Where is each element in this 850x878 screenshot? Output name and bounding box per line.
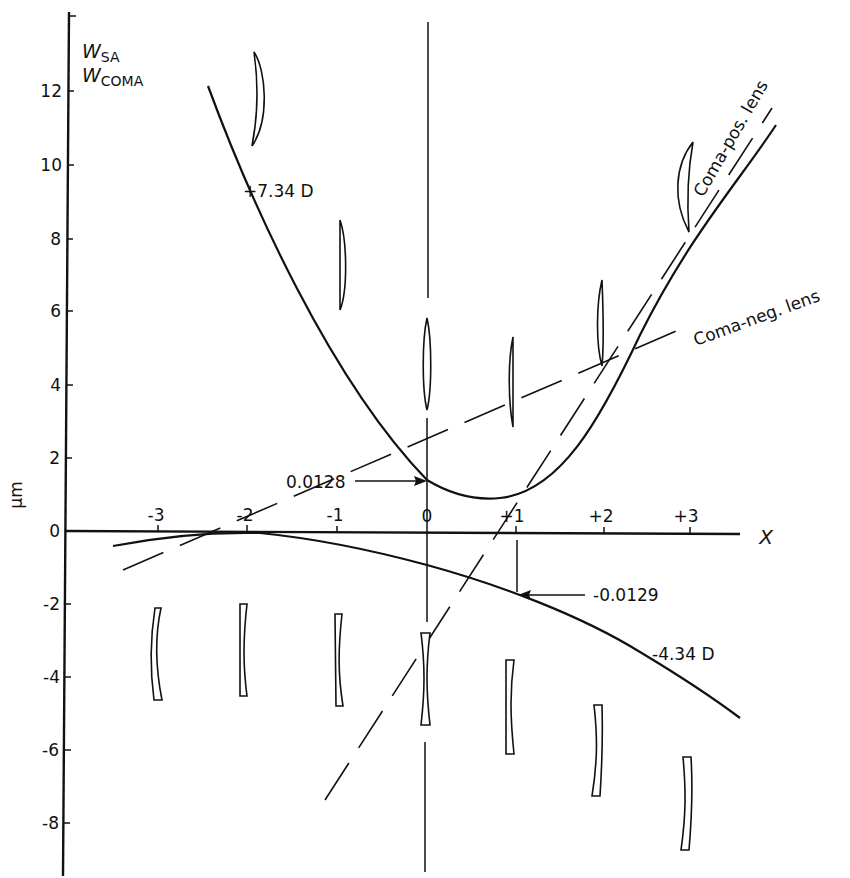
y-tick-label: 4 bbox=[50, 375, 61, 395]
coma-neg-label: Coma-neg. lens bbox=[691, 285, 823, 349]
y-tick-labels: 12 10 8 6 4 2 0 -2 -4 -6 -8 bbox=[40, 81, 62, 833]
lens-plano-concave-icon bbox=[335, 614, 343, 706]
y-axis-unit-label: µm bbox=[6, 481, 26, 508]
y-tick-label: -4 bbox=[43, 667, 60, 687]
lens-plano-convex-icon bbox=[340, 220, 346, 310]
lens-meniscus-icon bbox=[598, 280, 604, 366]
lens-plano-concave-icon bbox=[240, 604, 247, 696]
x-tick-label: -3 bbox=[148, 505, 165, 525]
x-tick-label: 0 bbox=[422, 506, 433, 526]
w-sa-label: WSA bbox=[82, 40, 120, 65]
lens-meniscus-icon bbox=[252, 52, 264, 146]
coma-pos-lens-line bbox=[325, 108, 772, 800]
y-axis bbox=[63, 12, 69, 876]
y-tick-label: -8 bbox=[42, 813, 59, 833]
value-label-0129: -0.0129 bbox=[593, 585, 659, 605]
lens-neg-meniscus-icon bbox=[592, 705, 602, 796]
x0-reference-line bbox=[425, 22, 428, 872]
y-tick-label: 10 bbox=[40, 155, 62, 175]
lens-plano-convex-icon bbox=[509, 337, 513, 427]
lens-plano-concave-icon bbox=[506, 660, 514, 754]
lens-biconcave-icon bbox=[421, 633, 430, 725]
y-tick-label: -6 bbox=[42, 740, 59, 760]
lens-neg-meniscus-icon bbox=[151, 608, 162, 700]
aberration-chart: 12 10 8 6 4 2 0 -2 -4 -6 -8 -3 -2 -1 0 +… bbox=[0, 0, 850, 878]
y-axis-title: WSA WCOMA bbox=[82, 40, 144, 89]
y-tick-label: 0 bbox=[49, 521, 60, 541]
y-tick-label: 6 bbox=[50, 301, 61, 321]
x-tick-label: -1 bbox=[327, 505, 344, 525]
positive-lens-shapes bbox=[252, 52, 693, 427]
w-coma-label: WCOMA bbox=[82, 64, 144, 89]
coma-pos-label: Coma-pos. lens bbox=[689, 76, 772, 200]
lens-neg-meniscus-icon bbox=[681, 757, 692, 850]
y-tick-label: 12 bbox=[40, 81, 62, 101]
value-label-0128: 0.0128 bbox=[286, 472, 345, 492]
x-tick-labels: -3 -2 -1 0 +1 +2 +3 bbox=[148, 505, 699, 526]
y-tick-label: 8 bbox=[50, 229, 61, 249]
x-axis-label: X bbox=[758, 525, 774, 549]
lens-biconvex-icon bbox=[423, 318, 431, 410]
pos-curve-label: +7.34 D bbox=[243, 181, 314, 201]
negative-lens-shapes bbox=[151, 604, 692, 850]
x-tick-label: +3 bbox=[673, 506, 698, 526]
x-axis bbox=[66, 531, 740, 534]
neg-curve-label: -4.34 D bbox=[652, 644, 714, 664]
x-tick-label: +2 bbox=[588, 506, 613, 526]
y-tick-label: 2 bbox=[49, 448, 60, 468]
y-tick-label: -2 bbox=[43, 594, 60, 614]
